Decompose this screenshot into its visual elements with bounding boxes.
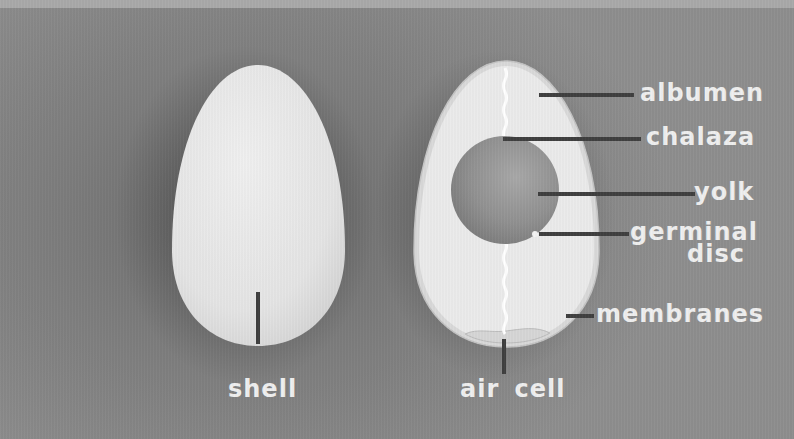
- egg-anatomy-diagram: shell albumen chalaza yolk germinal disc…: [0, 0, 794, 439]
- label-air-cell: air cell: [460, 378, 566, 400]
- germinal-disc: [532, 231, 538, 237]
- label-chalaza: chalaza: [646, 126, 755, 148]
- label-germinal-disc: germinal disc: [630, 221, 745, 265]
- label-albumen: albumen: [640, 82, 764, 104]
- label-germinal-disc-line2: disc: [630, 243, 745, 265]
- yolk: [451, 136, 559, 244]
- label-membranes: membranes: [596, 303, 764, 325]
- label-yolk: yolk: [694, 181, 754, 203]
- label-shell: shell: [228, 378, 297, 400]
